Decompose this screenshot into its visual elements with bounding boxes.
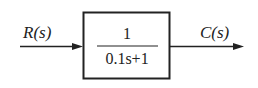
block-diagram: R(s) 1 0.1s+1 C(s) [0, 0, 258, 88]
output-signal-label: C(s) [200, 23, 230, 42]
block-numerator: 1 [123, 25, 131, 42]
input-signal-label: R(s) [22, 23, 52, 42]
block-denominator: 0.1s+1 [105, 50, 148, 67]
input-arrow [20, 43, 83, 50]
output-arrow [170, 43, 244, 50]
